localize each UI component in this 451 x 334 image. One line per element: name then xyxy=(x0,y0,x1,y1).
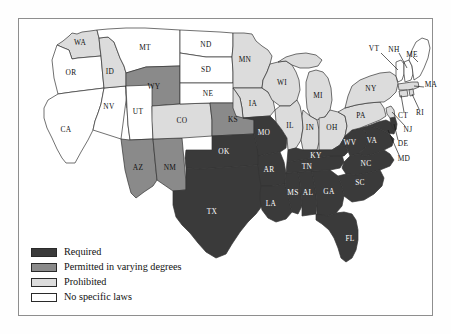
legend-label-permitted: Permitted in varying degrees xyxy=(64,262,181,272)
legend-swatch-no-specific-laws xyxy=(31,293,57,302)
state-label-VA: VA xyxy=(367,136,378,145)
state-label-CA: CA xyxy=(61,125,72,134)
legend-swatch-prohibited xyxy=(31,278,57,287)
state-label-WA: WA xyxy=(74,38,86,47)
state-label-CT: CT xyxy=(398,111,408,120)
state-label-NE: NE xyxy=(203,89,214,98)
state-label-AL: AL xyxy=(303,188,314,197)
state-RI[interactable] xyxy=(409,89,414,96)
state-label-AR: AR xyxy=(264,165,275,174)
legend-item-prohibited[interactable]: Prohibited xyxy=(31,275,241,290)
state-label-MI: MI xyxy=(313,91,323,100)
state-label-NC: NC xyxy=(361,159,372,168)
state-label-ID: ID xyxy=(106,67,115,76)
state-label-FL: FL xyxy=(345,234,354,243)
map-legend: Required Permitted in varying degrees Pr… xyxy=(31,245,241,305)
state-label-MD: MD xyxy=(398,154,411,163)
state-label-KS: KS xyxy=(228,115,238,124)
state-label-MN: MN xyxy=(239,55,252,64)
state-label-NJ: NJ xyxy=(404,125,413,134)
state-label-GA: GA xyxy=(323,187,335,196)
state-label-VT: VT xyxy=(369,44,380,53)
state-label-MT: MT xyxy=(139,43,151,52)
leader-line-VT xyxy=(381,53,398,70)
state-NJ[interactable] xyxy=(386,106,395,118)
state-label-WV: WV xyxy=(344,138,357,147)
state-label-KY: KY xyxy=(310,151,322,160)
legend-swatch-required xyxy=(31,248,57,257)
state-label-IA: IA xyxy=(249,99,258,108)
legend-label-prohibited: Prohibited xyxy=(64,277,106,287)
state-label-IL: IL xyxy=(286,121,294,130)
state-label-RI: RI xyxy=(416,108,424,117)
state-VT[interactable] xyxy=(396,60,404,82)
state-label-WI: WI xyxy=(277,78,287,87)
state-label-CO: CO xyxy=(177,116,188,125)
state-label-OK: OK xyxy=(218,147,230,156)
state-label-NH: NH xyxy=(388,45,400,54)
state-label-NY: NY xyxy=(365,84,377,93)
legend-item-no-specific-laws[interactable]: No specific laws xyxy=(31,290,241,305)
state-label-IN: IN xyxy=(306,123,315,132)
legend-label-required: Required xyxy=(64,247,101,257)
state-label-ND: ND xyxy=(200,40,212,49)
state-CT[interactable] xyxy=(399,90,408,97)
state-label-OR: OR xyxy=(66,68,77,77)
state-label-AZ: AZ xyxy=(133,163,144,172)
state-label-PA: PA xyxy=(356,111,366,120)
state-label-OH: OH xyxy=(326,123,338,132)
state-label-NV: NV xyxy=(103,102,115,111)
state-label-MA: MA xyxy=(425,80,438,89)
state-label-UT: UT xyxy=(133,107,144,116)
state-label-TN: TN xyxy=(302,162,313,171)
legend-label-no-specific-laws: No specific laws xyxy=(64,292,132,302)
state-label-DE: DE xyxy=(398,139,409,148)
state-label-ME: ME xyxy=(406,50,418,59)
legend-item-required[interactable]: Required xyxy=(31,245,241,260)
state-label-LA: LA xyxy=(266,199,277,208)
state-label-TX: TX xyxy=(207,207,218,216)
legend-swatch-permitted xyxy=(31,263,57,272)
state-label-SC: SC xyxy=(355,178,365,187)
state-label-NM: NM xyxy=(164,163,177,172)
state-label-WY: WY xyxy=(148,82,161,91)
legend-item-permitted[interactable]: Permitted in varying degrees xyxy=(31,260,241,275)
leader-line-CT xyxy=(401,95,404,112)
figure-page: WA OR CA NV ID MT WY UT AZ NM CO ND SD N… xyxy=(0,0,451,334)
state-label-MO: MO xyxy=(258,128,271,137)
state-label-MS: MS xyxy=(287,188,298,197)
state-label-SD: SD xyxy=(201,65,211,74)
